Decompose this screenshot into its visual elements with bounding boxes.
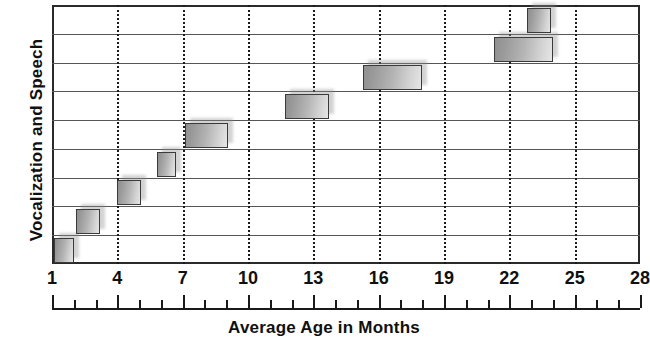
x-axis-minor-tick: [139, 300, 141, 308]
x-axis-major-tick: [640, 295, 642, 308]
x-axis-ruler-baseline: [52, 308, 640, 310]
x-axis-minor-tick: [335, 300, 337, 308]
vertical-gridline: [248, 5, 250, 264]
vertical-gridline: [313, 5, 315, 264]
plot-frame-bottom: [52, 262, 640, 264]
bar: [54, 238, 74, 263]
x-axis-minor-tick: [400, 300, 402, 308]
bar: [363, 65, 422, 90]
x-axis-minor-tick: [270, 300, 272, 308]
plot-frame-right: [638, 5, 640, 264]
vertical-gridline: [444, 5, 446, 264]
x-axis-major-tick: [444, 295, 446, 308]
x-axis-tick-label-group: 14710131619222528: [0, 268, 648, 292]
bar: [117, 180, 141, 205]
x-axis-minor-tick: [553, 300, 555, 308]
x-axis-minor-tick: [74, 300, 76, 308]
x-axis-minor-tick: [596, 300, 598, 308]
x-axis-title: Average Age in Months: [0, 318, 648, 338]
x-axis-major-tick: [313, 295, 315, 308]
x-axis-major-tick: [379, 295, 381, 308]
x-axis-tick-label: 10: [238, 268, 258, 289]
vertical-gridline: [575, 5, 577, 264]
row-separator: [52, 120, 640, 121]
x-axis-minor-tick: [292, 300, 294, 308]
bar: [494, 37, 553, 62]
y-axis-title: Vocalization and Speech: [27, 10, 47, 270]
x-axis-minor-tick: [226, 300, 228, 308]
x-axis-tick-label: 19: [434, 268, 454, 289]
x-axis-tick-label: 16: [369, 268, 389, 289]
bar: [76, 209, 100, 234]
x-axis-major-tick: [248, 295, 250, 308]
x-axis-minor-tick: [161, 300, 163, 308]
x-axis-tick-label: 7: [178, 268, 188, 289]
x-axis-tick-label: 22: [499, 268, 519, 289]
x-axis-minor-tick: [488, 300, 490, 308]
x-axis-major-tick: [509, 295, 511, 308]
x-axis-ruler: [52, 296, 640, 310]
x-axis-tick-label: 25: [565, 268, 585, 289]
plot-frame-left: [52, 5, 54, 264]
vertical-gridline: [379, 5, 381, 264]
x-axis-tick-label: 4: [112, 268, 122, 289]
x-axis-minor-tick: [357, 300, 359, 308]
x-axis-major-tick: [575, 295, 577, 308]
vertical-gridline: [117, 5, 119, 264]
bar: [285, 94, 329, 119]
x-axis-major-tick: [117, 295, 119, 308]
x-axis-major-tick: [52, 295, 54, 308]
row-separator: [52, 91, 640, 92]
x-axis-minor-tick: [204, 300, 206, 308]
bar: [527, 8, 551, 33]
x-axis-tick-label: 13: [303, 268, 323, 289]
row-separator: [52, 149, 640, 150]
x-axis-minor-tick: [96, 300, 98, 308]
x-axis-major-tick: [183, 295, 185, 308]
bar: [185, 123, 229, 148]
plot-area: [52, 5, 640, 264]
x-axis-minor-tick: [422, 300, 424, 308]
x-axis-minor-tick: [466, 300, 468, 308]
x-axis-tick-label: 1: [47, 268, 57, 289]
row-separator: [52, 206, 640, 207]
row-separator: [52, 63, 640, 64]
row-separator: [52, 235, 640, 236]
x-axis-minor-tick: [531, 300, 533, 308]
x-axis-tick-label: 28: [630, 268, 650, 289]
bar: [157, 152, 177, 177]
x-axis-minor-tick: [618, 300, 620, 308]
